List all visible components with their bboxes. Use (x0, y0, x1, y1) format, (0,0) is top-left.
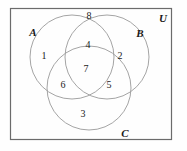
region-label-a-and-c: 6 (61, 80, 66, 90)
region-label-a-b-and-c: 7 (84, 64, 89, 74)
universe-label: U (159, 13, 167, 24)
venn-diagram-figure: U A B C 1 2 3 4 5 6 7 8 (0, 0, 187, 151)
region-label-b-only: 2 (118, 51, 123, 61)
region-label-b-and-c: 5 (107, 80, 112, 90)
region-label-c-only: 3 (81, 109, 86, 119)
set-label-a: A (29, 27, 36, 38)
region-label-a-and-b: 4 (86, 40, 91, 50)
region-label-a-only: 1 (42, 51, 47, 61)
set-label-b: B (136, 28, 143, 39)
set-label-c: C (121, 128, 128, 139)
region-label-outside: 8 (87, 11, 92, 21)
